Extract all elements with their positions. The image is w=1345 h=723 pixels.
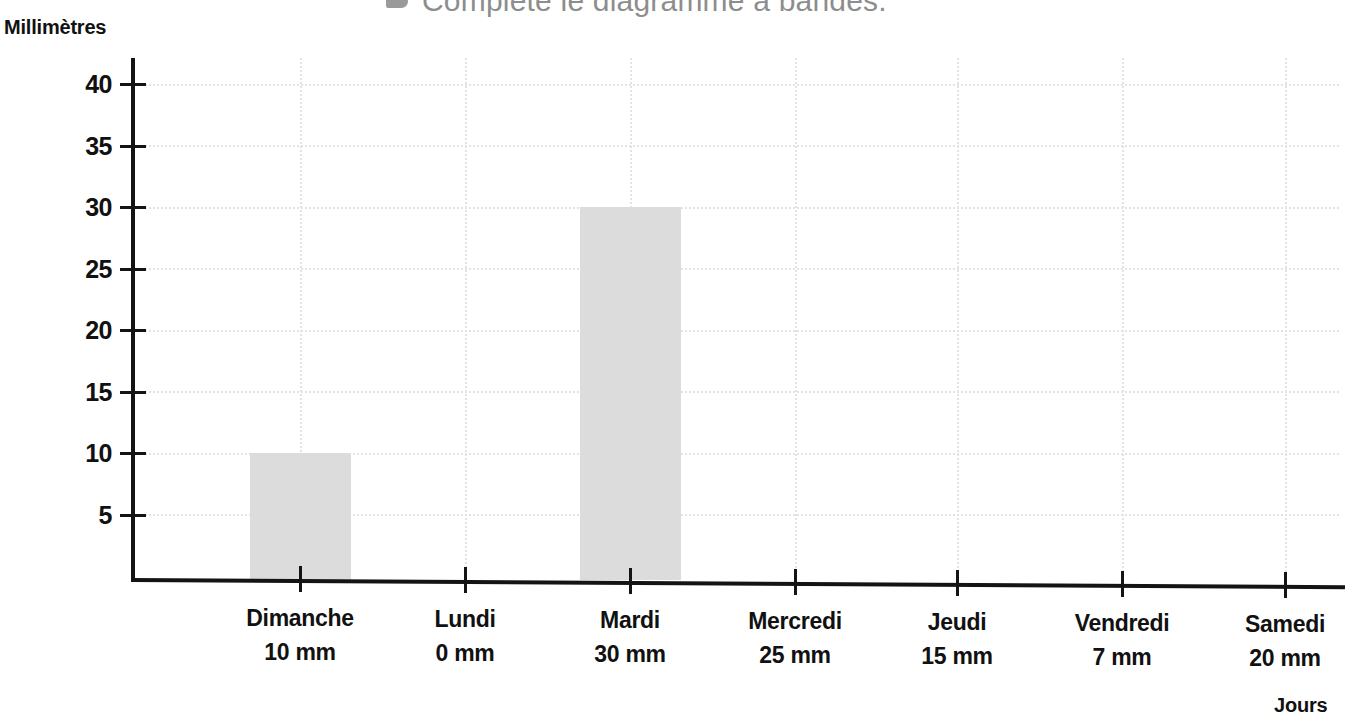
x-tick-mark bbox=[299, 566, 302, 592]
gridline-horizontal bbox=[133, 145, 1339, 147]
x-tick-mark bbox=[794, 569, 797, 595]
y-tick-label: 10 bbox=[56, 439, 112, 468]
y-tick-mark bbox=[120, 83, 146, 86]
y-tick-mark bbox=[120, 391, 146, 394]
gridline-vertical bbox=[465, 58, 467, 580]
x-axis-line bbox=[131, 578, 1345, 589]
x-label-day: Samedi bbox=[1185, 607, 1345, 641]
gridline-horizontal bbox=[133, 391, 1339, 393]
y-tick-mark bbox=[120, 329, 146, 332]
gridline-vertical bbox=[1122, 58, 1124, 580]
bar-mardi bbox=[580, 207, 681, 580]
y-tick-mark bbox=[120, 145, 146, 148]
bar-chart-plot: 40 35 30 25 20 15 10 5 Dimanche 10 mm Lu… bbox=[0, 0, 1345, 723]
gridline-horizontal bbox=[133, 330, 1339, 332]
y-tick-mark bbox=[120, 452, 146, 455]
x-tick-mark bbox=[629, 568, 632, 594]
x-tick-mark bbox=[1121, 571, 1124, 597]
y-tick-label: 40 bbox=[56, 70, 112, 99]
x-tick-mark bbox=[1284, 572, 1287, 598]
y-tick-label: 30 bbox=[56, 193, 112, 222]
y-tick-label: 20 bbox=[56, 316, 112, 345]
y-tick-mark bbox=[120, 514, 146, 517]
y-tick-mark bbox=[120, 268, 146, 271]
x-tick-mark bbox=[956, 570, 959, 596]
x-tick-label-samedi: Samedi 20 mm bbox=[1185, 607, 1345, 675]
gridline-horizontal bbox=[133, 84, 1339, 86]
gridline-vertical bbox=[957, 58, 959, 580]
gridline-horizontal bbox=[133, 207, 1339, 209]
y-tick-label: 25 bbox=[56, 255, 112, 284]
y-tick-label: 35 bbox=[56, 132, 112, 161]
y-axis-line bbox=[131, 58, 135, 582]
bar-dimanche bbox=[250, 453, 351, 580]
gridline-vertical bbox=[1285, 58, 1287, 580]
y-tick-label: 15 bbox=[56, 378, 112, 407]
y-tick-mark bbox=[120, 206, 146, 209]
x-tick-mark bbox=[464, 567, 467, 593]
y-tick-label: 5 bbox=[56, 501, 112, 530]
x-label-amount: 20 mm bbox=[1185, 641, 1345, 675]
gridline-horizontal bbox=[133, 268, 1339, 270]
gridline-vertical bbox=[795, 58, 797, 580]
